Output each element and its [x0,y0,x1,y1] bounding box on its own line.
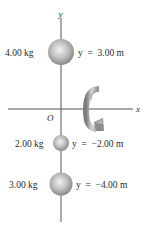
sphere-4kg [48,39,74,65]
sphere-2kg [53,135,69,151]
sphere-3kg [50,173,73,196]
diagram-svg: y x O 4.00 kg y = 3.00 m 2.00 kg y = −2.… [0,0,150,231]
mass-label-2kg: 2.00 kg [15,139,44,149]
mass-3kg: 3.00 kg y = −4.00 m [9,173,128,196]
curved-rotation-arrow-icon [86,89,104,131]
mass-2kg: 2.00 kg y = −2.00 m [15,135,124,151]
mass-label-3kg: 3.00 kg [9,180,38,190]
origin-label: O [47,113,54,123]
y-axis-label: y [58,9,63,19]
position-label-3kg: y = −4.00 m [76,180,128,190]
x-axis-label: x [135,104,140,114]
mass-label-4kg: 4.00 kg [5,48,34,58]
position-label-2kg: y = −2.00 m [72,139,124,149]
position-label-4kg: y = 3.00 m [78,48,125,58]
mass-4kg: 4.00 kg y = 3.00 m [5,39,125,65]
diagram-canvas: y x O 4.00 kg y = 3.00 m 2.00 kg y = −2.… [0,0,150,231]
